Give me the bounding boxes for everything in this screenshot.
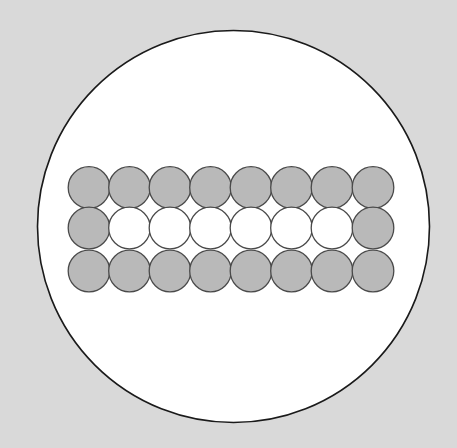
unshaded-circle bbox=[271, 207, 313, 249]
circle-packing-diagram bbox=[0, 0, 457, 448]
shaded-circle bbox=[109, 167, 151, 209]
shaded-circle bbox=[311, 167, 353, 209]
unshaded-circle bbox=[109, 207, 151, 249]
shaded-circle bbox=[68, 250, 110, 292]
shaded-circle bbox=[230, 167, 272, 209]
shaded-circle bbox=[68, 167, 110, 209]
unshaded-circle bbox=[230, 207, 272, 249]
shaded-circle bbox=[68, 207, 110, 249]
shaded-circle bbox=[271, 167, 313, 209]
shaded-circle bbox=[109, 250, 151, 292]
shaded-circle bbox=[230, 250, 272, 292]
diagram-canvas bbox=[0, 0, 457, 448]
shaded-circle bbox=[190, 167, 232, 209]
shaded-circle bbox=[271, 250, 313, 292]
shaded-circle bbox=[149, 167, 191, 209]
shaded-circle bbox=[190, 250, 232, 292]
shaded-circle bbox=[352, 250, 394, 292]
shaded-circle bbox=[352, 207, 394, 249]
unshaded-circle bbox=[149, 207, 191, 249]
unshaded-circle bbox=[190, 207, 232, 249]
small-circle-grid bbox=[68, 167, 394, 292]
shaded-circle bbox=[352, 167, 394, 209]
shaded-circle bbox=[311, 250, 353, 292]
shaded-circle bbox=[149, 250, 191, 292]
unshaded-circle bbox=[311, 207, 353, 249]
